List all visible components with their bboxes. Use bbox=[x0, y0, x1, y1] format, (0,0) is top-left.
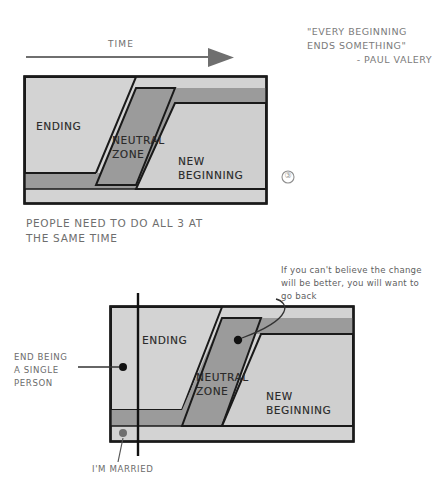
bottom-label-neutral-zone-line2: ZONE bbox=[196, 385, 228, 398]
top-label-neutral-zone-line1: NEUTRAL bbox=[112, 134, 165, 147]
top-label-neutral-zone-line2: ZONE bbox=[112, 148, 144, 161]
bottom-label-new-beginning-line2: BEGINNING bbox=[266, 404, 331, 417]
top-caption-line-2: THE SAME TIME bbox=[26, 231, 118, 246]
bottom-label-ending: ENDING bbox=[142, 334, 187, 347]
quote-line-1: "EVERY BEGINNING bbox=[307, 26, 407, 38]
quote-attribution: - PAUL VALERY bbox=[307, 54, 432, 66]
annotation-im-married: I'M MARRIED bbox=[92, 464, 153, 475]
top-label-new-beginning-line1: NEW bbox=[178, 155, 205, 168]
annotation-go-back-line-2: will be better, you will want to bbox=[281, 277, 419, 290]
annotation-go-back-line-3: go back bbox=[281, 290, 317, 303]
quote-line-2: ENDS SOMETHING" bbox=[307, 40, 406, 52]
bottom-label-new-beginning-line1: NEW bbox=[266, 390, 293, 403]
diagram-page: TIME "EVERY BEGINNING ENDS SOMETHING" - … bbox=[0, 0, 446, 489]
page-mark-label: ③ bbox=[285, 171, 292, 180]
top-caption-line-1: PEOPLE NEED TO DO ALL 3 AT bbox=[26, 216, 203, 231]
leader-im-married bbox=[118, 429, 127, 462]
top-label-ending: ENDING bbox=[36, 120, 81, 133]
top-label-new-beginning-line2: BEGINNING bbox=[178, 169, 243, 182]
anchor-dot-im-married bbox=[119, 429, 127, 437]
annotation-end-being-line-3: PERSON bbox=[14, 377, 53, 390]
annotation-end-being-line-1: END BEING bbox=[14, 351, 68, 364]
annotation-go-back-line-1: If you can't believe the change bbox=[281, 264, 422, 277]
anchor-dot-end-being-single bbox=[119, 363, 127, 371]
anchor-dot-go-back-note bbox=[234, 336, 242, 344]
bottom-label-neutral-zone-line1: NEUTRAL bbox=[196, 371, 249, 384]
time-axis-label: TIME bbox=[108, 39, 134, 51]
annotation-end-being-line-2: A SINGLE bbox=[14, 364, 59, 377]
time-arrow-icon bbox=[26, 48, 234, 67]
